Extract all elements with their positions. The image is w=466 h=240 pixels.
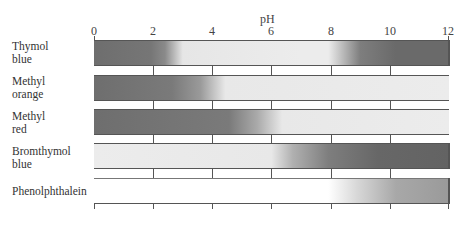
row-label-line: Methyl [12, 75, 45, 88]
bar-right-edge [448, 178, 450, 204]
tick [331, 134, 332, 143]
tick-label-6: 6 [268, 24, 274, 39]
tick [153, 66, 154, 75]
bar-right-edge [448, 40, 450, 66]
tick [212, 100, 213, 109]
tick-label-8: 8 [328, 24, 334, 39]
tick [153, 203, 154, 209]
tick [390, 100, 391, 109]
tick [331, 100, 332, 109]
tick [271, 100, 272, 109]
bar-methyl-orange [94, 75, 449, 101]
row-label-line: blue [12, 158, 71, 171]
tick [390, 134, 391, 143]
row-label-methyl-red: Methyl red [12, 110, 45, 136]
tick [94, 203, 95, 209]
tick [331, 203, 332, 209]
tick [153, 168, 154, 178]
tick [390, 66, 391, 75]
row-label-line: Phenolphthalein [12, 185, 87, 198]
row-label-line: Bromthymol [12, 145, 71, 158]
row-label-line: blue [12, 53, 48, 66]
tick [331, 168, 332, 178]
tick [212, 168, 213, 178]
bar-thymol-blue [94, 40, 449, 66]
row-label-thymol-blue: Thymol blue [12, 40, 48, 66]
tick-label-10: 10 [384, 24, 396, 39]
tick [271, 134, 272, 143]
row-label-line: red [12, 123, 45, 136]
row-label-line: orange [12, 88, 45, 101]
tick [271, 66, 272, 75]
tick [212, 134, 213, 143]
tick [271, 168, 272, 178]
tick [153, 134, 154, 143]
tick [212, 203, 213, 209]
tick [212, 66, 213, 75]
bar-phenolphthalein [94, 178, 449, 204]
tick [153, 100, 154, 109]
bar-bromthymol-blue [94, 143, 449, 169]
tick [331, 66, 332, 75]
tick [271, 203, 272, 209]
bar-right-edge [448, 143, 450, 169]
tick [390, 203, 391, 209]
row-label-bromthymol-blue: Bromthymol blue [12, 145, 71, 171]
tick-label-2: 2 [150, 24, 156, 39]
row-label-methyl-orange: Methyl orange [12, 75, 45, 101]
row-label-line: Methyl [12, 110, 45, 123]
row-label-line: Thymol [12, 40, 48, 53]
tick [390, 168, 391, 178]
row-label-phenolphthalein: Phenolphthalein [12, 185, 87, 198]
tick-label-4: 4 [209, 24, 215, 39]
bar-methyl-red [94, 109, 449, 135]
